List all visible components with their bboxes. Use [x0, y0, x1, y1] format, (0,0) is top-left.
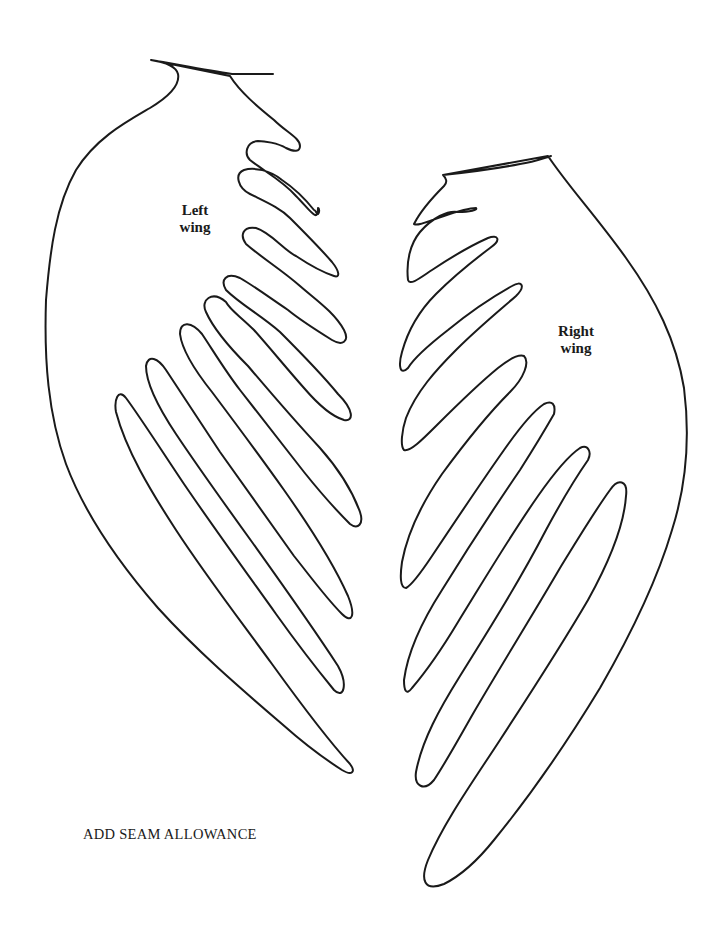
right-wing-label: Right wing — [554, 323, 598, 357]
seam-allowance-note: ADD SEAM ALLOWANCE — [83, 826, 257, 843]
pattern-drawing — [0, 0, 726, 939]
left-wing-outline — [46, 60, 362, 773]
left-wing-label-line1: Left — [176, 202, 214, 219]
left-wing-label-line2: wing — [176, 219, 214, 236]
right-wing-outline — [400, 156, 687, 887]
left-wing-label: Left wing — [176, 202, 214, 236]
right-wing-label-line2: wing — [554, 340, 598, 357]
right-wing-label-line1: Right — [554, 323, 598, 340]
